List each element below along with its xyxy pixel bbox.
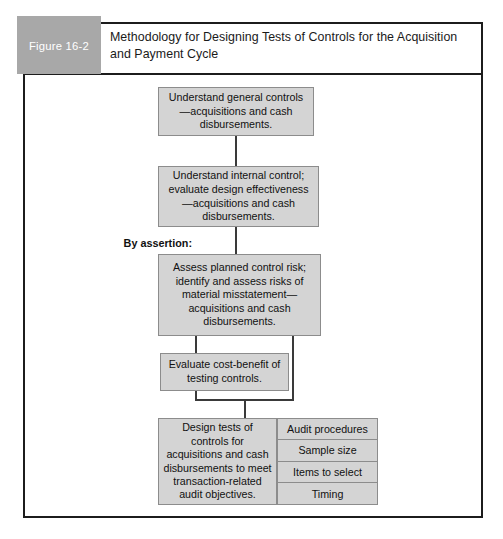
connector-step3-bypass-branch (292, 335, 294, 401)
procedure-cell-label: Audit procedures (287, 423, 368, 435)
figure-title: Methodology for Designing Tests of Contr… (110, 29, 460, 63)
connector-merge-to-step5 (244, 399, 246, 418)
procedure-cell-label: Timing (312, 488, 344, 500)
connector-step1-to-step2 (235, 135, 237, 167)
procedure-cell-timing: Timing (277, 483, 378, 505)
connector-step3-to-step4 (195, 335, 197, 354)
flow-box-understand-internal-control: Understand internal control; evaluate de… (158, 166, 319, 227)
procedure-cell-label: Items to select (293, 466, 362, 478)
flow-box-text: Understand general controls—acquisitions… (159, 91, 313, 132)
audit-procedures-column: Audit procedures Sample size Items to se… (277, 418, 378, 505)
flow-box-text: Assess planned control risk; identify an… (159, 261, 320, 329)
flow-box-text: Evaluate cost-benefit of testing control… (161, 358, 288, 385)
flow-box-text: Understand internal control; evaluate de… (159, 169, 318, 223)
flow-box-assess-planned-control-risk: Assess planned control risk; identify an… (158, 254, 321, 336)
connector-step2-to-step3 (235, 226, 237, 255)
procedure-cell-items-to-select: Items to select (277, 462, 378, 484)
flow-box-understand-general-controls: Understand general controls—acquisitions… (158, 87, 314, 136)
procedure-cell-audit-procedures: Audit procedures (277, 418, 378, 440)
figure-number-label: Figure 16-2 (17, 40, 101, 52)
flow-box-design-tests-of-controls: Design tests of controls for acquisition… (158, 418, 277, 505)
flow-box-text: Design tests of controls for acquisition… (159, 421, 276, 501)
figure-number-tab: Figure 16-2 (17, 16, 101, 74)
by-assertion-label: By assertion: (88, 237, 192, 249)
design-tests-group: Design tests of controls for acquisition… (158, 418, 378, 505)
flow-box-evaluate-cost-benefit: Evaluate cost-benefit of testing control… (160, 353, 289, 391)
procedure-cell-label: Sample size (298, 444, 356, 456)
procedure-cell-sample-size: Sample size (277, 440, 378, 462)
